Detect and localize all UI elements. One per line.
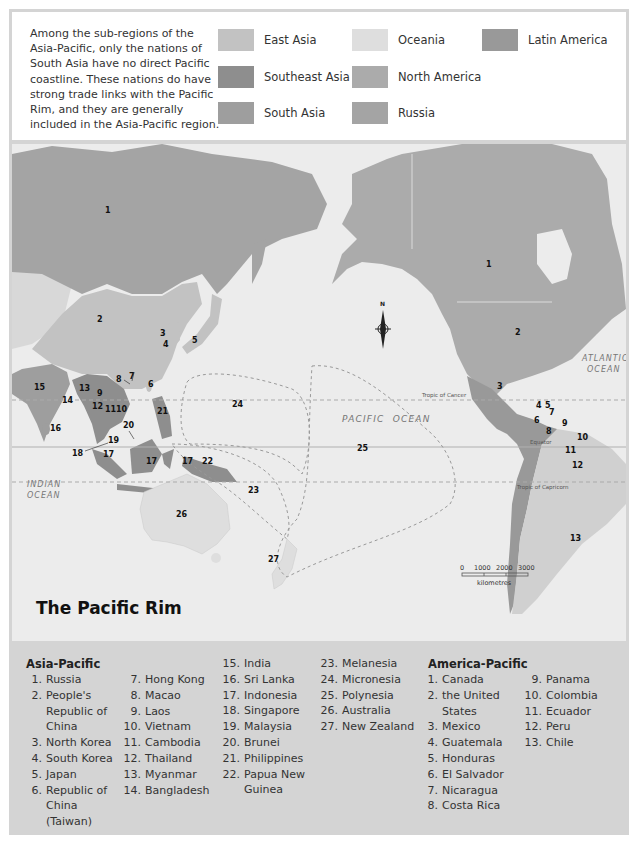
svg-text:17: 17: [146, 457, 157, 466]
kamchatka: [252, 239, 267, 284]
asia-col-2: 7.Hong Kong 8.Macao 9.Laos 10.Vietnam 11…: [119, 672, 219, 798]
legend-oceania: Oceania: [352, 29, 445, 51]
svg-text:23: 23: [248, 486, 259, 495]
svg-text:6: 6: [148, 380, 154, 389]
legend-label: Southeast Asia: [264, 70, 350, 84]
legend-latin-america: Latin America: [482, 29, 608, 51]
svg-text:12: 12: [572, 461, 583, 470]
svg-text:3: 3: [160, 329, 166, 338]
svg-text:10: 10: [116, 405, 128, 414]
svg-text:3000: 3000: [518, 564, 535, 572]
tropic-of-capricorn-label: Tropic of Capricorn: [516, 484, 569, 491]
list-item: 12.Peru: [520, 719, 620, 735]
svg-text:0: 0: [460, 564, 464, 572]
list-item: 26.Australia: [316, 703, 426, 719]
tasmania: [211, 553, 221, 563]
legend-label: Oceania: [398, 33, 445, 47]
list-item: 13.Chile: [520, 735, 620, 751]
svg-text:15: 15: [34, 383, 46, 392]
list-item: 16.Sri Lanka: [218, 672, 318, 688]
svg-text:19: 19: [108, 436, 120, 445]
swatch-north-america: [352, 66, 388, 88]
svg-text:22: 22: [202, 457, 213, 466]
swatch-southeast-asia: [218, 66, 254, 88]
indian-ocean-label-1: INDIAN: [27, 480, 61, 489]
svg-text:1: 1: [105, 206, 111, 215]
svg-text:20: 20: [123, 421, 135, 430]
intro-text: Among the sub-regions of the Asia-Pacifi…: [30, 26, 220, 132]
svg-text:N: N: [380, 300, 385, 307]
legend-label: Latin America: [528, 33, 608, 47]
svg-text:2000: 2000: [496, 564, 513, 572]
svg-text:27: 27: [268, 555, 279, 564]
atlantic-ocean-label-1: ATLANTIC: [581, 354, 626, 363]
list-item: 3.North Korea: [20, 735, 120, 751]
svg-text:1: 1: [486, 260, 492, 269]
svg-text:16: 16: [50, 424, 62, 433]
legend-panel: Among the sub-regions of the Asia-Pacifi…: [12, 12, 626, 140]
svg-text:13: 13: [79, 384, 90, 393]
indian-ocean-label-2: OCEAN: [27, 491, 60, 500]
svg-text:9: 9: [97, 389, 103, 398]
asia-col-3: 15.India 16.Sri Lanka 17.Indonesia 18.Si…: [218, 656, 318, 798]
legend-south-asia: South Asia: [218, 102, 325, 124]
russia-region: [12, 144, 327, 294]
list-item: 6.El Salvador: [416, 767, 516, 783]
list-item: 8.Macao: [119, 688, 219, 704]
pacific-ocean-label: PACIFIC OCEAN: [342, 414, 431, 424]
legend-label: Russia: [398, 106, 435, 120]
list-item: 6.Republic of China (Taiwan): [20, 783, 120, 830]
list-item: 2.the United States: [416, 688, 516, 720]
sulawesi: [162, 449, 174, 469]
list-item: 11.Ecuador: [520, 704, 620, 720]
new-zealand: [272, 539, 297, 589]
svg-text:10: 10: [577, 433, 589, 442]
svg-text:17: 17: [103, 450, 114, 459]
svg-text:14: 14: [62, 396, 74, 405]
list-item: 9.Laos: [119, 704, 219, 720]
asia-col-4: 23.Melanesia 24.Micronesia 25.Polynesia …: [316, 656, 426, 735]
list-item: 18.Singapore: [218, 703, 318, 719]
svg-text:7: 7: [549, 408, 555, 417]
svg-text:3: 3: [497, 382, 503, 391]
svg-text:2: 2: [97, 315, 103, 324]
list-item: 2.People's Republic of China: [20, 688, 120, 735]
list-item: 13.Myanmar: [119, 767, 219, 783]
compass-rose-icon: N: [375, 300, 391, 349]
svg-text:5: 5: [192, 336, 198, 345]
list-item: 4.Guatemala: [416, 735, 516, 751]
svg-text:24: 24: [232, 400, 244, 409]
list-item: 7.Hong Kong: [119, 672, 219, 688]
legend-north-america: North America: [352, 66, 481, 88]
list-item: 1.Canada: [416, 672, 516, 688]
svg-text:4: 4: [163, 340, 169, 349]
equator-label: Equator: [530, 439, 552, 446]
svg-text:21: 21: [157, 407, 169, 416]
list-item: 4.South Korea: [20, 751, 120, 767]
svg-text:2: 2: [515, 328, 521, 337]
sri-lanka: [42, 423, 50, 435]
list-item: 5.Honduras: [416, 751, 516, 767]
asia-col-1: 1.Russia 2.People's Republic of China 3.…: [20, 672, 120, 830]
svg-text:8: 8: [546, 427, 552, 436]
list-item: 15.India: [218, 656, 318, 672]
svg-text:8: 8: [116, 375, 122, 384]
list-item: 5.Japan: [20, 767, 120, 783]
legend-east-asia: East Asia: [218, 29, 317, 51]
list-item: 17.Indonesia: [218, 688, 318, 704]
svg-text:17: 17: [182, 457, 193, 466]
list-item: 10.Vietnam: [119, 719, 219, 735]
svg-text:26: 26: [176, 510, 188, 519]
swatch-east-asia: [218, 29, 254, 51]
svg-text:4: 4: [536, 401, 542, 410]
list-item: 19.Malaysia: [218, 719, 318, 735]
list-item: 14.Bangladesh: [119, 783, 219, 799]
swatch-oceania: [352, 29, 388, 51]
swatch-south-asia: [218, 102, 254, 124]
swatch-russia: [352, 102, 388, 124]
list-item: 27.New Zealand: [316, 719, 426, 735]
list-item: 25.Polynesia: [316, 688, 426, 704]
svg-text:6: 6: [534, 416, 540, 425]
legend-southeast-asia: Southeast Asia: [218, 66, 350, 88]
america-col-1: 1.Canada 2.the United States 3.Mexico 4.…: [416, 672, 516, 814]
